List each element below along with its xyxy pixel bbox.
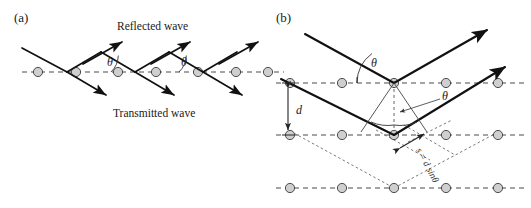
zigzag-up-segment	[203, 52, 237, 72]
atom	[151, 67, 160, 76]
reflected-ray-upper	[394, 30, 487, 83]
atom	[493, 130, 502, 139]
atom	[33, 67, 42, 76]
angle-label-theta-b-inner: θ	[442, 89, 448, 103]
panel-a-label: (a)	[14, 10, 28, 25]
reflected-ray-lower	[394, 67, 505, 135]
figure-svg: (a)	[0, 0, 531, 208]
atom	[389, 183, 398, 192]
atom	[441, 183, 450, 192]
angle-label-theta-a1: θ	[107, 55, 113, 69]
panel-b: (b)	[276, 10, 526, 193]
atom	[441, 130, 450, 139]
atom	[285, 183, 294, 192]
atom	[441, 78, 450, 87]
incident-ray-upper	[305, 34, 394, 83]
transmitted-ray	[67, 72, 106, 95]
angle-label-theta-a2: θ	[181, 55, 187, 69]
atom	[337, 78, 346, 87]
path-difference-label: s = d sinθ	[414, 146, 441, 184]
angle-label-theta-b-top: θ	[371, 56, 377, 70]
angle-arc-top	[357, 54, 372, 84]
guide-dotted-wavefront-b	[404, 125, 455, 155]
spacing-label-d: d	[296, 103, 303, 117]
zigzag-up-segment	[67, 52, 101, 72]
reflected-wave-label: Reflected wave	[117, 20, 188, 32]
panel-b-path-difference: s = d sinθ	[400, 134, 441, 185]
panel-a: (a)	[14, 10, 284, 119]
panel-b-angle-arcs	[357, 54, 417, 126]
atom	[231, 67, 240, 76]
reflected-ray	[219, 42, 258, 64]
panel-b-label: (b)	[276, 10, 291, 25]
transmitted-wave-label: Transmitted wave	[113, 107, 195, 119]
atom	[263, 67, 272, 76]
atom	[337, 183, 346, 192]
panel-b-spacing-dimension: d	[282, 83, 303, 135]
panel-b-upper-ray	[305, 30, 487, 83]
panel-a-zigzag-rays	[22, 48, 237, 72]
atom	[337, 130, 346, 139]
atom	[493, 183, 502, 192]
bragg-diffraction-figure: (a)	[0, 0, 531, 208]
atom	[493, 78, 502, 87]
atom	[113, 67, 122, 76]
path-difference-arrow	[400, 134, 424, 148]
incident-ray-segment	[22, 48, 67, 72]
panel-b-lattice-planes	[276, 83, 526, 188]
